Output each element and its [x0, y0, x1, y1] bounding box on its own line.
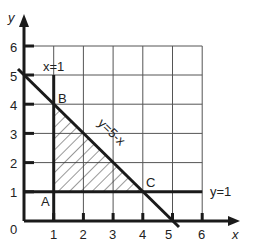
y-tick-label: 4	[10, 98, 17, 113]
y-tick-label: 1	[10, 185, 17, 200]
x-tick-label: 5	[165, 227, 172, 242]
point-label-c: C	[146, 175, 155, 190]
y-axis-arrow-icon	[19, 14, 29, 27]
x-tick-label: 3	[109, 227, 116, 242]
label-x-equals-1: x=1	[43, 59, 64, 74]
y-tick-label: 5	[10, 69, 17, 84]
graph: y x 0 1 2 3 4 5 6 1 2 3 4 5 6 x=1 y=1 y=…	[0, 0, 253, 247]
x-tick-label: 1	[50, 227, 57, 242]
label-y-equals-5-minus-x: y=5-x	[95, 115, 129, 148]
x-axis-label: x	[231, 227, 239, 242]
x-axis-arrow-icon	[228, 216, 240, 226]
label-y-equals-1: y=1	[210, 184, 231, 199]
y-axis-label: y	[7, 10, 16, 25]
x-tick-label: 6	[198, 227, 205, 242]
y-tick-label: 2	[10, 156, 17, 171]
x-tick-label: 4	[139, 227, 146, 242]
point-label-a: A	[41, 194, 50, 209]
y-tick-label: 3	[10, 127, 17, 142]
origin-label: 0	[10, 222, 17, 237]
x-tick-label: 2	[80, 227, 87, 242]
point-label-b: B	[58, 91, 67, 106]
y-tick-label: 6	[10, 40, 17, 55]
